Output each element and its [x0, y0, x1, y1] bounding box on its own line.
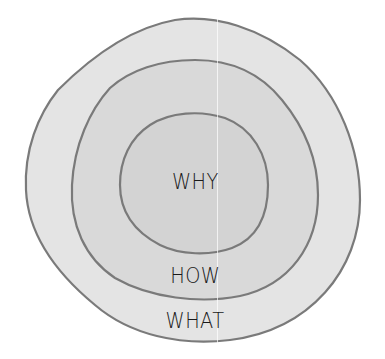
label-how: HOW	[170, 264, 220, 288]
golden-circle-diagram: WHY HOW WHAT	[0, 0, 385, 359]
label-what: WHAT	[166, 309, 225, 333]
label-why: WHY	[172, 170, 219, 194]
